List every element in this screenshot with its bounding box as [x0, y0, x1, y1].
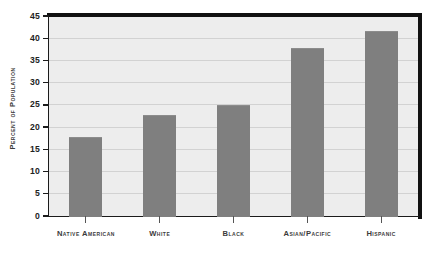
y-axis-tick: [43, 38, 49, 39]
y-axis-tick: [43, 60, 49, 61]
bar: [143, 115, 176, 217]
x-axis-tick: [233, 216, 234, 223]
x-axis-tick: [85, 216, 86, 223]
gridline: [49, 60, 418, 61]
y-axis-tick-label: 20: [16, 122, 40, 132]
y-axis-tick: [43, 149, 49, 150]
gridline: [49, 38, 418, 39]
bar: [291, 48, 324, 217]
bar-chart: Percent of Population 051015202530354045…: [0, 0, 434, 256]
y-axis-tick-label: 45: [16, 11, 40, 21]
y-axis-tick: [43, 193, 49, 194]
y-axis-tick: [43, 15, 49, 16]
y-axis-tick-label: 40: [16, 33, 40, 43]
x-axis-tick: [381, 216, 382, 223]
plot-right-rule: [418, 13, 422, 219]
y-axis-tick-label: 5: [16, 188, 40, 198]
x-axis-category-label: Hispanic: [321, 229, 434, 238]
bar: [69, 137, 102, 217]
gridline: [49, 82, 418, 83]
y-axis-tick-label: 10: [16, 166, 40, 176]
bar: [217, 105, 250, 217]
y-axis-tick-label: 35: [16, 55, 40, 65]
y-axis-tick: [43, 82, 49, 83]
y-axis-tick-label: 25: [16, 99, 40, 109]
y-axis-tick: [43, 171, 49, 172]
y-axis-line: [48, 16, 49, 217]
y-axis-tick: [43, 215, 49, 216]
bar: [365, 31, 398, 217]
y-axis-tick-label: 30: [16, 77, 40, 87]
y-axis-tick: [43, 104, 49, 105]
x-axis-tick: [307, 216, 308, 223]
y-axis-tick-label: 0: [16, 211, 40, 221]
y-axis-tick: [43, 126, 49, 127]
plot-top-rule: [47, 13, 422, 17]
x-axis-tick: [159, 216, 160, 223]
y-axis-tick-label: 15: [16, 144, 40, 154]
